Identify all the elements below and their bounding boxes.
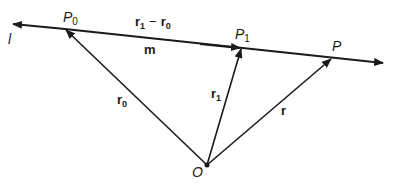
line-label: l — [8, 31, 12, 47]
r1-label: r1 — [211, 86, 221, 103]
line-l — [13, 24, 383, 63]
vector-r0 — [66, 30, 207, 165]
vector-r — [207, 59, 331, 165]
r-label: r — [281, 103, 286, 118]
vector-line-diagram: l P0 P1 P O r1−r0 m r0 r1 r — [0, 0, 398, 190]
point-p0-label: P0 — [63, 9, 78, 27]
m-vector-label: m — [144, 42, 156, 57]
r0-label: r0 — [117, 92, 127, 109]
diff-vector-label: r1−r0 — [135, 14, 171, 31]
point-p1-label: P1 — [235, 26, 250, 44]
origin-label: O — [192, 164, 203, 180]
origin-point — [205, 163, 210, 168]
vector-r1 — [207, 49, 241, 165]
point-p-label: P — [332, 38, 342, 54]
